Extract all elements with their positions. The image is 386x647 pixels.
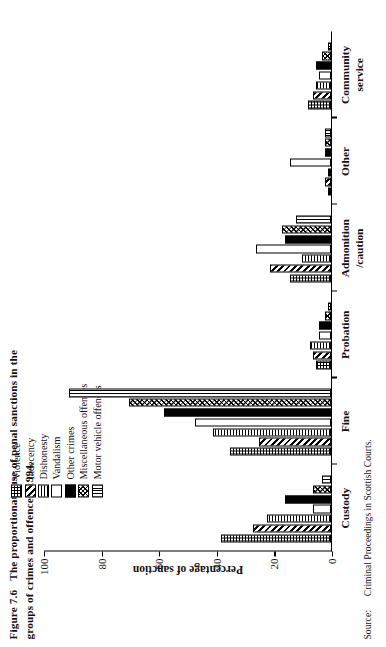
bar	[308, 100, 331, 108]
plot-area: 100806040200CustodyFineProbationAdmoniti…	[44, 31, 332, 551]
legend-item: Indecency	[23, 383, 36, 497]
bar	[325, 311, 331, 319]
y-axis-tick	[102, 551, 103, 556]
bar	[256, 244, 331, 252]
category-label: Custody	[339, 487, 353, 528]
bar	[221, 534, 330, 542]
bar	[290, 274, 330, 282]
bar	[129, 398, 331, 406]
y-axis-tick-label: 80	[96, 558, 108, 569]
bar-group	[43, 213, 331, 282]
y-axis-tick	[332, 551, 333, 556]
category-separator-tick	[332, 116, 337, 117]
bar	[319, 331, 331, 339]
bar	[325, 128, 331, 136]
y-axis-tick	[44, 551, 45, 556]
category-label: Admonition /caution	[339, 219, 367, 277]
bar	[328, 187, 331, 195]
bar	[325, 148, 331, 156]
y-axis-tick-label: 0	[326, 558, 338, 564]
bar	[270, 264, 330, 272]
bar	[69, 388, 331, 396]
bar	[328, 42, 331, 50]
bar	[325, 177, 331, 185]
bar	[302, 254, 331, 262]
bar	[195, 418, 330, 426]
legend-swatch-violence	[11, 484, 22, 497]
figure-canvas: Figure 7.6The proportionate use of penal…	[0, 0, 386, 647]
bar	[267, 514, 330, 522]
legend-item: Violence	[10, 383, 23, 497]
y-axis-tick-label: 60	[153, 558, 165, 569]
category-separator-tick	[332, 376, 337, 377]
bar	[313, 485, 330, 493]
category-label: Other	[339, 146, 353, 175]
bar	[164, 408, 331, 416]
bar	[290, 158, 330, 166]
bar-group	[43, 387, 331, 456]
bar	[313, 504, 330, 512]
bar	[310, 341, 330, 349]
figure-rotation-wrapper: Figure 7.6The proportionate use of penal…	[0, 0, 386, 647]
bar	[285, 495, 331, 503]
legend-swatch-indecency	[25, 484, 36, 497]
bar	[316, 81, 330, 89]
bar-group	[43, 127, 331, 196]
figure-number: Figure 7.6	[7, 589, 19, 639]
bar	[296, 215, 331, 223]
bar	[322, 51, 331, 59]
bar-group	[43, 300, 331, 369]
category-label: Probation	[339, 310, 353, 359]
bar	[319, 71, 331, 79]
source-text: Criminal Proceedings in Scottish Courts.	[362, 439, 373, 596]
bar	[253, 524, 331, 532]
category-separator-tick	[332, 463, 337, 464]
bar	[316, 360, 330, 368]
y-axis-tick-label: 20	[268, 558, 280, 569]
bar-group	[43, 40, 331, 109]
bar	[322, 475, 331, 483]
category-label: Community service	[339, 45, 367, 103]
bar	[313, 351, 330, 359]
bar	[285, 235, 331, 243]
source-label: Source:	[362, 610, 373, 639]
y-axis-line	[44, 550, 332, 551]
bar	[316, 61, 330, 69]
source-note: Source:Criminal Proceedings in Scottish …	[362, 439, 373, 639]
y-axis-tick	[274, 551, 275, 556]
bar	[325, 138, 331, 146]
category-separator-tick	[332, 290, 337, 291]
bar	[213, 428, 331, 436]
bar	[230, 447, 331, 455]
bar	[313, 91, 330, 99]
legend-item-label: Indecency	[25, 437, 36, 479]
bar	[282, 225, 331, 233]
legend-item-label: Violence	[11, 443, 22, 479]
bar	[328, 302, 331, 310]
category-label: Fine	[339, 410, 353, 432]
category-separator-tick	[332, 203, 337, 204]
y-axis-tick	[159, 551, 160, 556]
bar	[319, 321, 331, 329]
y-axis-label-text: Percentage of sanction	[133, 564, 243, 576]
bar-group	[43, 473, 331, 542]
bar	[328, 168, 331, 176]
y-axis-tick-label: 100	[38, 558, 50, 575]
y-axis-tick-label: 40	[211, 558, 223, 569]
y-axis-tick	[217, 551, 218, 556]
bar	[259, 437, 331, 445]
